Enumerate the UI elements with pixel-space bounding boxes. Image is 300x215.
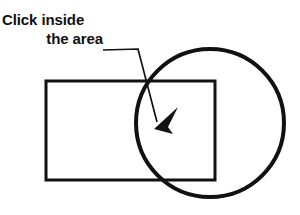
instruction-line-2: the area	[46, 30, 103, 47]
diagram-canvas: Click inside the area	[0, 0, 300, 215]
instruction-diagram: Click inside the area	[0, 0, 300, 215]
instruction-line-1: Click inside	[2, 11, 84, 28]
